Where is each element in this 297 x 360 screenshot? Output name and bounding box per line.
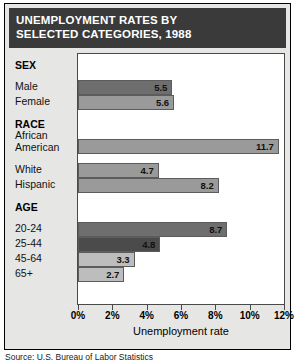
bar-value-label: 8.2	[201, 179, 214, 192]
bar: 8.2	[78, 178, 219, 193]
category-label: Male	[15, 79, 38, 94]
chart-body: SEXMaleFemaleRACEAfricanAmericanWhiteHis…	[9, 53, 286, 341]
x-axis-tick-label: 12%	[274, 310, 294, 321]
chart-title-line-2: SELECTED CATEGORIES, 1988	[16, 28, 279, 42]
category-label: Female	[15, 94, 50, 109]
bar-value-label: 5.6	[156, 96, 169, 109]
bar-value-label: 3.3	[116, 253, 129, 266]
bar-value-label: 8.7	[209, 223, 222, 236]
bar-value-label: 2.7	[106, 268, 119, 281]
category-label: AfricanAmerican	[15, 130, 59, 153]
category-label-column: SEXMaleFemaleRACEAfricanAmericanWhiteHis…	[9, 53, 77, 305]
plot-area: 5.55.611.74.78.28.74.83.32.7	[77, 53, 285, 305]
x-axis-tick-label: 6%	[174, 310, 188, 321]
bar-value-label: 11.7	[256, 140, 274, 153]
bar-value-label: 5.5	[154, 81, 167, 94]
x-axis-tick-label: 2%	[105, 310, 119, 321]
bar: 3.3	[78, 252, 135, 267]
x-axis-tick-labels: 0%2%4%6%8%10%12%	[77, 310, 285, 324]
category-label-line: African	[15, 130, 59, 142]
bar: 4.8	[78, 237, 160, 252]
bar: 11.7	[78, 139, 279, 154]
bar: 4.7	[78, 163, 159, 178]
category-label: 20-24	[15, 221, 42, 236]
x-axis-tick-label: 4%	[139, 310, 153, 321]
x-axis-tick-label: 8%	[208, 310, 222, 321]
bar-value-label: 4.8	[142, 238, 155, 251]
category-label-line: American	[15, 142, 59, 154]
category-label: 25-44	[15, 236, 42, 251]
chart-figure: UNEMPLOYMENT RATES BY SELECTED CATEGORIE…	[4, 3, 291, 350]
bar: 8.7	[78, 222, 227, 237]
category-label: White	[15, 162, 42, 177]
category-label: 65+	[15, 266, 33, 281]
category-label: Hispanic	[15, 177, 55, 192]
chart-title-line-1: UNEMPLOYMENT RATES BY	[16, 14, 279, 28]
bar: 5.6	[78, 95, 174, 110]
category-label: 45-64	[15, 251, 42, 266]
bar: 2.7	[78, 267, 124, 282]
x-axis-title: Unemployment rate	[77, 325, 285, 337]
source-note: Source: U.S. Bureau of Labor Statistics	[5, 352, 153, 360]
group-heading-sex: SEX	[15, 59, 36, 72]
group-heading-age: AGE	[15, 201, 38, 214]
chart-title-bar: UNEMPLOYMENT RATES BY SELECTED CATEGORIE…	[9, 8, 286, 48]
x-axis-tick-label: 10%	[240, 310, 260, 321]
bar: 5.5	[78, 80, 172, 95]
bar-value-label: 4.7	[140, 164, 153, 177]
x-axis-tick-label: 0%	[71, 310, 85, 321]
